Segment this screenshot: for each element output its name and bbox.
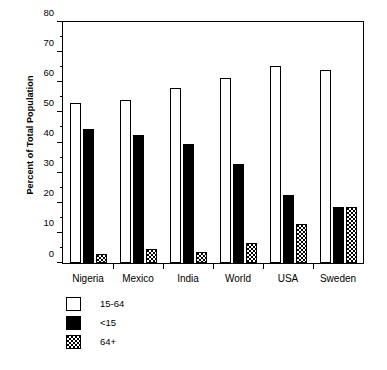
x-category-label: Mexico	[122, 274, 154, 284]
bar-world-15	[233, 164, 244, 263]
bar-sweden-15	[333, 207, 344, 263]
x-category-label: Sweden	[320, 274, 356, 284]
y-tick-major	[57, 202, 63, 203]
bar-world-64	[246, 243, 257, 263]
y-tick-label: 80	[14, 8, 54, 18]
x-category-label: World	[225, 274, 251, 284]
legend-item: 15-64	[66, 294, 124, 313]
x-tick	[113, 263, 114, 269]
x-category-label: India	[177, 274, 199, 284]
x-tick	[213, 263, 214, 269]
bar-nigeria-64	[96, 254, 107, 263]
y-tick-minor	[60, 96, 64, 97]
bar-mexico-15	[133, 135, 144, 263]
legend-item: <15	[66, 313, 124, 332]
y-tick-major	[57, 51, 63, 52]
bar-mexico-64	[146, 249, 157, 263]
bar-india-1564	[170, 88, 181, 263]
y-tick-minor	[60, 36, 64, 37]
legend-swatch-icon	[66, 297, 81, 311]
bar-world-1564	[220, 78, 231, 263]
y-tick-major	[57, 262, 63, 263]
y-tick-label: 50	[14, 98, 54, 108]
y-tick-label: 0	[14, 249, 54, 259]
x-category-label: Nigeria	[72, 274, 104, 284]
y-tick-minor	[60, 217, 64, 218]
y-tick-label: 70	[14, 38, 54, 48]
bar-mexico-1564	[120, 100, 131, 263]
x-category-label: USA	[278, 274, 299, 284]
y-tick-minor	[60, 66, 64, 67]
legend-label: 15-64	[100, 299, 124, 309]
y-tick-label: 60	[14, 68, 54, 78]
legend-swatch-icon	[66, 335, 81, 349]
bar-usa-64	[296, 224, 307, 263]
bar-sweden-1564	[320, 70, 331, 263]
bar-india-64	[196, 252, 207, 263]
y-tick-major	[57, 21, 63, 22]
bar-sweden-64	[346, 207, 357, 263]
y-tick-minor	[60, 157, 64, 158]
y-tick-major	[57, 111, 63, 112]
legend-label: 64+	[100, 337, 116, 347]
y-tick-minor	[60, 247, 64, 248]
x-tick	[263, 263, 264, 269]
chart-figure: Percent of Total Population 010203040506…	[0, 0, 387, 370]
bar-nigeria-15	[83, 129, 94, 263]
bar-usa-15	[283, 195, 294, 263]
y-tick-minor	[60, 187, 64, 188]
bar-nigeria-1564	[70, 103, 81, 263]
x-tick	[313, 263, 314, 269]
y-tick-label: 20	[14, 189, 54, 199]
y-tick-label: 30	[14, 158, 54, 168]
legend-label: <15	[100, 318, 116, 328]
x-tick	[163, 263, 164, 269]
y-tick-label: 10	[14, 219, 54, 229]
y-tick-major	[57, 81, 63, 82]
y-tick-label: 40	[14, 128, 54, 138]
chart-legend: 15-64<1564+	[66, 294, 124, 351]
legend-item: 64+	[66, 332, 124, 351]
legend-swatch-icon	[66, 316, 81, 330]
bar-usa-1564	[270, 66, 281, 263]
y-tick-major	[57, 142, 63, 143]
y-tick-minor	[60, 126, 64, 127]
plot-area: 01020304050607080 NigeriaMexicoIndiaWorl…	[62, 21, 364, 264]
y-tick-major	[57, 232, 63, 233]
bar-india-15	[183, 144, 194, 263]
y-tick-major	[57, 172, 63, 173]
